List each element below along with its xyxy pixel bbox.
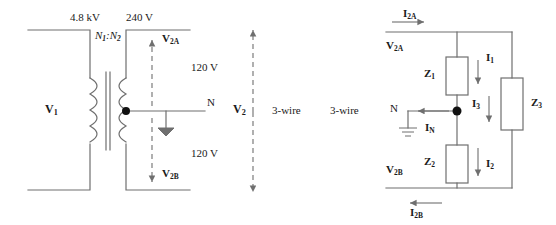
primary-top-wire bbox=[28, 30, 90, 78]
secondary-rating-label: 240 V bbox=[126, 12, 153, 23]
v2-label: V2 bbox=[233, 103, 246, 115]
i3-label: I3 bbox=[472, 98, 480, 109]
i2a-label: I2A bbox=[403, 8, 416, 19]
lower-half-voltage-label: 120 V bbox=[191, 148, 218, 159]
wire-label-left: 3-wire bbox=[272, 105, 301, 116]
secondary-bottom-wire bbox=[126, 144, 190, 190]
primary-winding bbox=[90, 78, 97, 142]
z2-label: Z2 bbox=[424, 156, 435, 167]
v2a-load-label: V2A bbox=[386, 40, 403, 51]
i2b-label: I2B bbox=[410, 207, 423, 218]
v2b-load-label: V2B bbox=[386, 164, 403, 175]
turns-ratio-label: N1:N2 bbox=[95, 30, 121, 41]
v2b-label: V2B bbox=[162, 168, 179, 179]
primary-bottom-wire bbox=[28, 144, 90, 190]
impedance-z1 bbox=[446, 57, 468, 95]
load-neutral-node bbox=[453, 107, 462, 116]
impedance-z3 bbox=[501, 78, 523, 130]
upper-half-voltage-label: 120 V bbox=[191, 62, 218, 73]
load-ground-icon bbox=[399, 128, 417, 136]
in-label: IN bbox=[425, 122, 435, 133]
i2-label: I2 bbox=[486, 158, 494, 169]
i1-label: I1 bbox=[486, 52, 494, 63]
v1-label: V1 bbox=[45, 103, 58, 115]
ground-icon bbox=[158, 128, 174, 136]
center-tap-node bbox=[122, 107, 130, 115]
z3-label: Z3 bbox=[531, 97, 542, 108]
secondary-top-wire bbox=[126, 30, 190, 78]
load-neutral-label: N bbox=[390, 103, 398, 114]
z1-label: Z1 bbox=[424, 68, 435, 79]
source-neutral-label: N bbox=[207, 97, 215, 108]
wire-label-right: 3-wire bbox=[330, 105, 359, 116]
v2a-label: V2A bbox=[162, 33, 179, 44]
primary-rating-label: 4.8 kV bbox=[70, 12, 100, 23]
impedance-z2 bbox=[446, 145, 468, 183]
